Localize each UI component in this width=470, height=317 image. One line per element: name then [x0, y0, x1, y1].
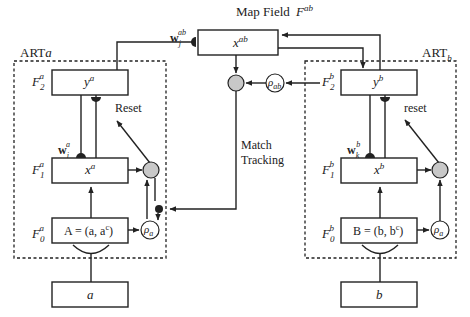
f0a-label: F0a: [31, 223, 45, 244]
weight-wjab-label: wjab: [170, 28, 186, 48]
f1a-label: F1a: [31, 159, 44, 180]
ya-to-map-line: [117, 42, 196, 70]
adaptive-weight-dot: [191, 37, 196, 47]
f1b-label: F1b: [321, 159, 334, 180]
top-down-weight-dot: [91, 97, 101, 102]
f0b-label: F0b: [321, 223, 335, 244]
input-b-arc: [362, 245, 398, 254]
art-b-title: ARTb: [422, 45, 452, 63]
reset-a-arrow: [117, 121, 150, 163]
art-b-orienting-node: [432, 162, 448, 178]
yb-to-map-line: [282, 35, 380, 70]
map-field-orienting-node: [228, 75, 244, 91]
bottom-up-weight-dot: [76, 153, 86, 158]
match-tracking-line: [170, 91, 236, 209]
reset-a-label: Reset: [115, 101, 142, 115]
f2a-label: F2a: [31, 71, 45, 92]
map-field-title: Map Field Fab: [236, 3, 314, 19]
bottom-up-weight-dot-b: [365, 153, 375, 158]
map-to-yb-line: [278, 48, 363, 68]
match-tracking-label-1: Match: [241, 138, 272, 152]
weight-wkb-label: wkb: [347, 140, 360, 160]
input-b-label: b: [376, 287, 383, 302]
reset-b-label: reset: [404, 101, 427, 115]
match-tracking-label-2: Tracking: [241, 153, 284, 167]
input-a-label: a: [87, 287, 94, 302]
match-tracking-junction: [155, 205, 163, 213]
artmap-diagram: Map Field Fab xab wjab ρab Match Trackin…: [0, 0, 470, 317]
art-a-orienting-node: [143, 162, 159, 178]
weight-wja-label: wja: [58, 140, 70, 160]
reset-b-arrow: [405, 120, 439, 163]
top-down-weight-dot-b: [380, 97, 390, 102]
f2b-label: F2b: [321, 71, 335, 92]
input-a-arc: [73, 245, 109, 254]
art-a-title: ARTa: [20, 45, 52, 60]
